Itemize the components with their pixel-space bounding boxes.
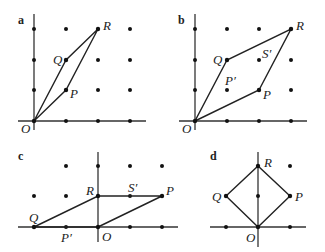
- label-P: P: [262, 87, 271, 102]
- point-P: [160, 194, 164, 198]
- parallelogram: [195, 29, 291, 121]
- label-R: R: [263, 155, 272, 170]
- point-O: [193, 119, 197, 123]
- label-O: O: [182, 121, 192, 136]
- label-S-prime: S′: [128, 180, 138, 195]
- label-Q: Q: [53, 52, 63, 67]
- panel-c: c O P Q R P′ S′: [18, 149, 178, 245]
- lattice-dots: [193, 27, 293, 123]
- point-R: [289, 27, 293, 31]
- point-P: [257, 88, 261, 92]
- panel-label: b: [178, 13, 185, 27]
- label-O: O: [102, 229, 112, 244]
- label-P: P: [69, 86, 78, 101]
- label-S-prime: S′: [262, 46, 272, 61]
- label-Q: Q: [212, 189, 222, 204]
- panel-label: d: [210, 149, 217, 163]
- panel-label: a: [18, 13, 24, 27]
- point-R: [96, 194, 100, 198]
- point-Q: [225, 58, 229, 62]
- panel-label: c: [18, 149, 24, 163]
- panel-b: b O P Q R P′ S′: [178, 13, 307, 136]
- label-O: O: [21, 121, 31, 136]
- point-P: [288, 194, 292, 198]
- lattice-figure: a O P Q R b O P: [0, 0, 325, 252]
- parallelogram: [34, 29, 98, 121]
- point-Q: [32, 225, 36, 229]
- point-R: [96, 27, 100, 31]
- panel-d: d O P Q R: [210, 149, 306, 247]
- point-O: [96, 225, 100, 229]
- label-R: R: [85, 183, 94, 198]
- point-Q: [224, 194, 228, 198]
- panel-a: a O P Q R: [18, 13, 146, 136]
- point-O: [32, 119, 36, 123]
- point-P: [64, 88, 68, 92]
- label-R: R: [102, 18, 111, 33]
- label-O: O: [246, 230, 256, 245]
- label-P-prime: P′: [60, 230, 72, 245]
- label-Q: Q: [213, 52, 223, 67]
- point-R: [256, 164, 260, 168]
- point-O: [256, 225, 260, 229]
- label-P: P: [165, 183, 174, 198]
- label-R: R: [295, 18, 304, 33]
- label-P: P: [294, 189, 303, 204]
- label-P-prime: P′: [224, 73, 236, 88]
- label-Q: Q: [29, 210, 39, 225]
- point-Q: [64, 58, 68, 62]
